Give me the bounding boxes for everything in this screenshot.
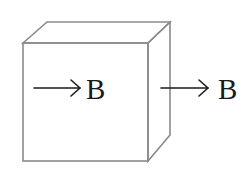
- inside-field-arrow: B: [34, 73, 105, 105]
- cube-diagram: B B: [0, 0, 252, 174]
- outside-field-arrow: B: [161, 73, 237, 105]
- inside-field-label: B: [86, 73, 105, 105]
- cube-right-face: [148, 22, 170, 161]
- outside-field-label: B: [218, 73, 237, 105]
- cube-top-face: [23, 22, 170, 43]
